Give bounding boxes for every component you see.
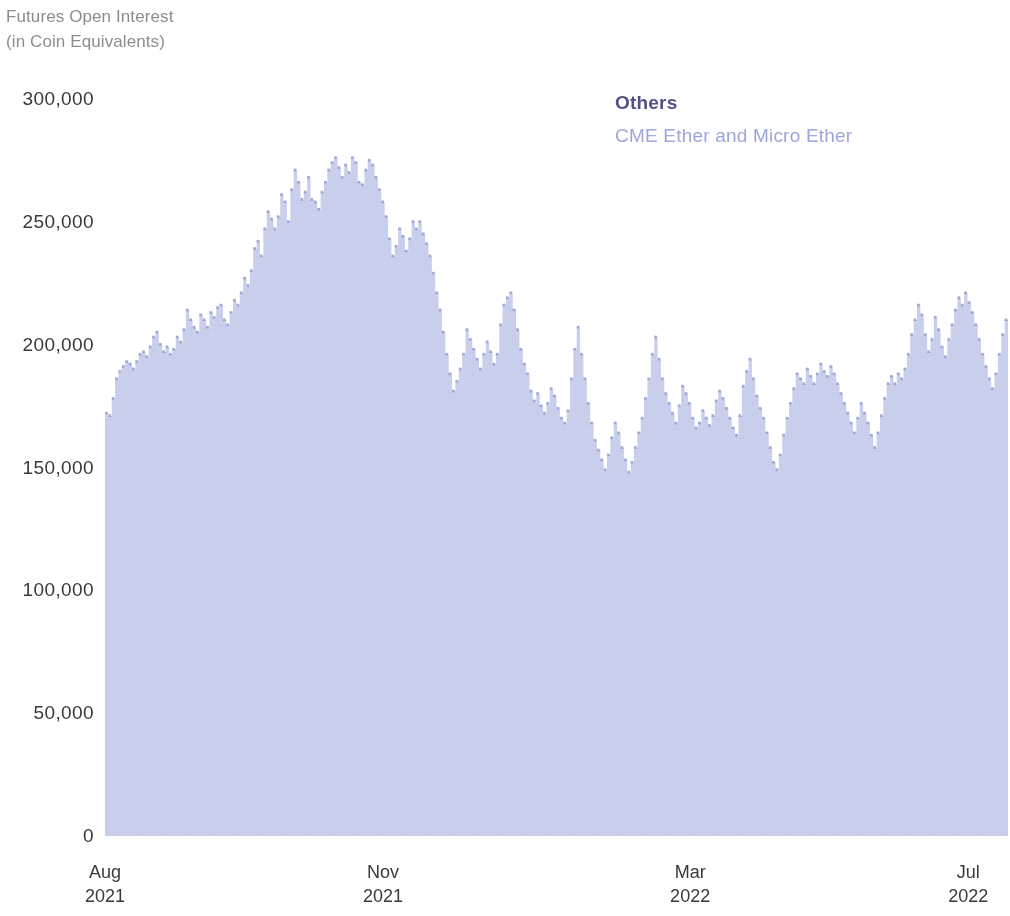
- x-axis-tick-month: Jul: [948, 860, 988, 884]
- y-axis-tick-label: 0: [83, 825, 94, 847]
- x-axis-tick-label: Nov2021: [363, 860, 403, 908]
- plot-area: [105, 99, 1008, 836]
- x-axis-tick-year: 2022: [948, 884, 988, 908]
- x-axis-tick-year: 2022: [670, 884, 710, 908]
- x-axis-tick-label: Mar2022: [670, 860, 710, 908]
- y-axis-tick-label: 250,000: [23, 211, 94, 233]
- x-axis-tick-month: Mar: [670, 860, 710, 884]
- x-axis-tick-month: Nov: [363, 860, 403, 884]
- x-axis-tick-month: Aug: [85, 860, 125, 884]
- area-series-svg: [105, 99, 1008, 836]
- others-area-series: [105, 158, 1008, 836]
- x-axis-labels: Aug2021Nov2021Mar2022Jul2022: [0, 860, 1010, 916]
- x-axis-tick-label: Jul2022: [948, 860, 988, 908]
- y-axis-tick-label: 150,000: [23, 457, 94, 479]
- x-axis-tick-label: Aug2021: [85, 860, 125, 908]
- y-axis-tick-label: 50,000: [33, 702, 94, 724]
- y-axis-tick-label: 100,000: [23, 579, 94, 601]
- y-axis-tick-label: 300,000: [23, 88, 94, 110]
- x-axis-tick-year: 2021: [363, 884, 403, 908]
- futures-open-interest-chart: Futures Open Interest (in Coin Equivalen…: [0, 0, 1010, 916]
- y-axis-labels: 050,000100,000150,000200,000250,000300,0…: [0, 0, 94, 916]
- x-axis-tick-year: 2021: [85, 884, 125, 908]
- y-axis-tick-label: 200,000: [23, 334, 94, 356]
